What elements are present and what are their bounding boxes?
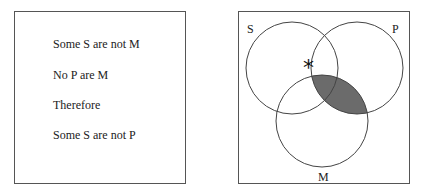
label-s: S [247,22,254,36]
asterisk-marker: * [303,55,314,80]
venn-diagram: S P M * [0,0,422,192]
label-m: M [318,170,329,184]
label-p: P [392,22,399,36]
